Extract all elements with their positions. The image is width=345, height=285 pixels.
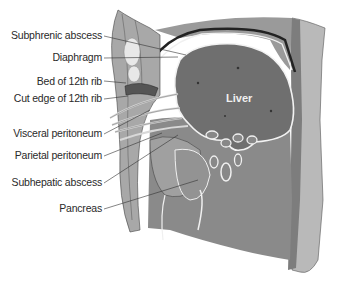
label-visceral-peritoneum: Visceral peritoneum: [13, 127, 102, 139]
label-pancreas: Pancreas: [59, 202, 102, 214]
anatomy-illustration: [0, 0, 345, 285]
label-subhepatic-abscess: Subhepatic abscess: [12, 176, 102, 188]
label-diaphragm: Diaphragm: [52, 51, 102, 63]
liver-label: Liver: [226, 92, 252, 104]
bowel-loop: [206, 131, 218, 139]
label-parietal-peritoneum: Parietal peritoneum: [15, 149, 102, 161]
label-bed-of-12th-rib: Bed of 12th rib: [37, 75, 102, 87]
anatomical-diagram: Liver Subphrenic abscess Diaphragm Bed o…: [0, 0, 345, 285]
label-cut-edge-of-12th-rib: Cut edge of 12th rib: [14, 92, 102, 104]
label-subphrenic-abscess: Subphrenic abscess: [11, 29, 102, 41]
